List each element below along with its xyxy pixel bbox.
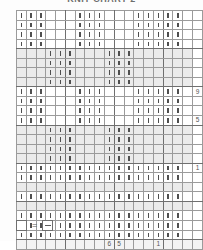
- chart-cell-empty: [56, 96, 66, 106]
- chart-cell-empty: [114, 20, 124, 30]
- chart-cell-symbol: [124, 135, 134, 145]
- chart-cell-empty: [173, 77, 183, 87]
- column-number: [75, 240, 85, 250]
- chart-cell-symbol: [75, 173, 85, 183]
- chart-cell-empty: [183, 96, 193, 106]
- row-number: 1: [192, 163, 202, 173]
- chart-cell-symbol: [46, 163, 56, 173]
- chart-cell-empty: [183, 173, 193, 183]
- chart-cell-symbol: [75, 39, 85, 49]
- chart-cell-symbol: [163, 163, 173, 173]
- chart-cell-empty: [75, 58, 85, 68]
- chart-cell-symbol: [46, 77, 56, 87]
- chart-cell-symbol: [114, 173, 124, 183]
- chart-cell-empty: [104, 106, 114, 116]
- chart-cell-symbol: [124, 58, 134, 68]
- chart-cell-empty: [114, 96, 124, 106]
- chart-cell-symbol: [114, 58, 124, 68]
- chart-cell-empty: [85, 77, 95, 87]
- chart-cell-symbol: [17, 30, 27, 40]
- chart-cell-symbol: [173, 20, 183, 30]
- chart-cell-symbol: [134, 192, 144, 202]
- chart-cell-symbol: [95, 11, 105, 21]
- chart-cell-symbol: [56, 211, 66, 221]
- chart-cell-symbol: [36, 192, 46, 202]
- chart-cell-symbol: [85, 221, 95, 231]
- chart-cell-empty: [36, 58, 46, 68]
- chart-cell-symbol: [95, 20, 105, 30]
- chart-cell-symbol: [163, 96, 173, 106]
- chart-cell-empty: [46, 20, 56, 30]
- chart-cell-symbol: [95, 173, 105, 183]
- chart-cell-symbol: [46, 230, 56, 240]
- chart-cell-empty: [104, 11, 114, 21]
- chart-cell-empty: [104, 39, 114, 49]
- chart-cell-empty: [85, 135, 95, 145]
- chart-cell-symbol: [26, 96, 36, 106]
- chart-cell-symbol: [65, 68, 75, 78]
- chart-cell-empty: [183, 49, 193, 59]
- chart-cell-empty: [17, 58, 27, 68]
- chart-cell-empty: [153, 201, 163, 211]
- chart-cell-empty: [46, 106, 56, 116]
- chart-cell-empty: [85, 58, 95, 68]
- chart-cell-symbol: [173, 106, 183, 116]
- chart-cell-symbol: [75, 87, 85, 97]
- chart-cell-empty: [153, 182, 163, 192]
- chart-cell-empty: [26, 135, 36, 145]
- chart-cell-empty: [114, 201, 124, 211]
- chart-cell-symbol: [104, 163, 114, 173]
- chart-cell-symbol: [114, 77, 124, 87]
- chart-cell-symbol: [134, 173, 144, 183]
- chart-cell-symbol: [17, 173, 27, 183]
- chart-cell-empty: [65, 182, 75, 192]
- chart-cell-symbol: [144, 30, 154, 40]
- chart-cell-empty: [95, 58, 105, 68]
- chart-cell-symbol: [26, 192, 36, 202]
- chart-cell-symbol: [26, 173, 36, 183]
- chart-cell-symbol: [153, 20, 163, 30]
- chart-cell-empty: [95, 77, 105, 87]
- chart-cell-empty: [163, 77, 173, 87]
- chart-cell-empty: [134, 135, 144, 145]
- row-number: [192, 192, 202, 202]
- chart-cell-symbol: [114, 230, 124, 240]
- chart-cell-empty: [124, 96, 134, 106]
- chart-cell-symbol: [144, 163, 154, 173]
- chart-cell-empty: [124, 182, 134, 192]
- chart-cell-empty: [65, 20, 75, 30]
- chart-cell-symbol: [124, 173, 134, 183]
- chart-row: [17, 144, 203, 154]
- chart-cell-symbol: [173, 96, 183, 106]
- column-number: [85, 240, 95, 250]
- column-number: [36, 240, 46, 250]
- chart-row: 5: [17, 116, 203, 126]
- chart-cell-symbol: [134, 20, 144, 30]
- chart-cell-symbol: [85, 192, 95, 202]
- chart-cell-symbol: [163, 192, 173, 202]
- chart-cell-empty: [144, 135, 154, 145]
- stitch-chart-grid: 951651: [16, 10, 203, 250]
- row-number: [192, 154, 202, 164]
- chart-cell-empty: [173, 49, 183, 59]
- chart-cell-empty: [104, 87, 114, 97]
- chart-cell-empty: [124, 106, 134, 116]
- chart-cell-empty: [26, 58, 36, 68]
- chart-cell-empty: [114, 87, 124, 97]
- chart-cell-empty: [26, 68, 36, 78]
- column-number: [46, 240, 56, 250]
- chart-cell-empty: [163, 154, 173, 164]
- chart-cell-symbol: [153, 211, 163, 221]
- chart-cell-empty: [163, 125, 173, 135]
- chart-row: [17, 49, 203, 59]
- chart-cell-symbol: [153, 221, 163, 231]
- chart-cell-empty: [104, 96, 114, 106]
- chart-cell-empty: [17, 201, 27, 211]
- chart-cell-symbol: [17, 106, 27, 116]
- chart-row: [17, 230, 203, 240]
- chart-cell-symbol: [75, 163, 85, 173]
- chart-cell-empty: [56, 11, 66, 21]
- chart-cell-empty: [183, 211, 193, 221]
- chart-row: [17, 68, 203, 78]
- chart-cell-symbol: [46, 49, 56, 59]
